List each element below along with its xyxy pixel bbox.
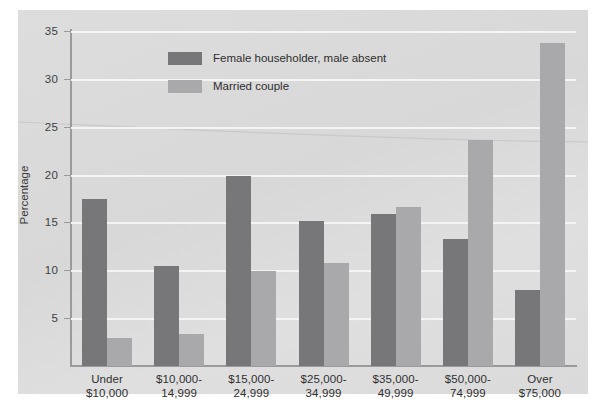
bar — [299, 221, 324, 366]
x-axis-tick-label: Over$75,000 — [495, 372, 585, 400]
bar — [396, 207, 421, 366]
legend-swatch — [168, 80, 202, 93]
bar — [324, 263, 349, 366]
y-axis-tick-label: 30 — [18, 73, 58, 85]
bar — [82, 199, 107, 367]
y-axis-tick-label: 35 — [18, 25, 58, 37]
y-axis-tick-label: 10 — [18, 264, 58, 276]
bar — [468, 140, 493, 366]
bar — [226, 176, 251, 366]
x-axis-tick-label-line: Over — [495, 372, 585, 386]
y-axis-tick-label: 5 — [18, 312, 58, 324]
legend-item: Married couple — [168, 78, 386, 94]
bar — [251, 271, 276, 366]
bar — [515, 290, 540, 366]
bar — [443, 239, 468, 366]
grid-line — [71, 175, 576, 177]
bar — [371, 214, 396, 366]
grid-line — [71, 127, 576, 129]
bar — [107, 338, 132, 366]
bar — [179, 334, 204, 366]
legend-label: Married couple — [213, 80, 289, 92]
grid-line — [71, 31, 576, 33]
legend-swatch — [168, 52, 202, 65]
chart-figure: 5101520253035 Percentage Under$10,000$10… — [0, 0, 606, 416]
y-axis-title-label: Percentage — [18, 166, 30, 225]
legend-label: Female householder, male absent — [213, 52, 386, 64]
chart-legend: Female householder, male absentMarried c… — [168, 50, 386, 106]
bar — [154, 266, 179, 366]
legend-item: Female householder, male absent — [168, 50, 386, 66]
y-axis-tick-label: 25 — [18, 121, 58, 133]
x-axis-tick-label-line: $75,000 — [495, 386, 585, 400]
bar — [540, 43, 565, 367]
y-axis-title: Percentage — [14, 140, 34, 250]
grid-line — [71, 222, 576, 224]
